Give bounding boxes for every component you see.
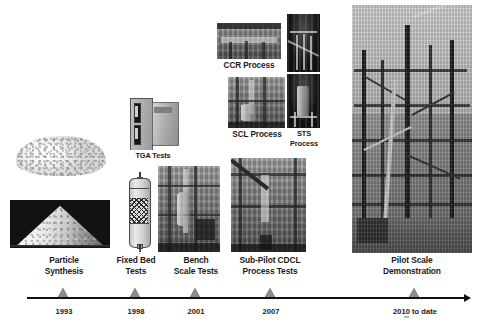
photo-scl-process xyxy=(228,77,285,128)
scl-base-shadow xyxy=(228,122,285,128)
sts-top-rail xyxy=(290,31,316,33)
stage-label-pilot-scale-line2: Demonstration xyxy=(364,267,460,276)
scl-column-left xyxy=(236,77,239,128)
photo-particle-cone xyxy=(10,200,110,248)
label-sts-process-line2: Process xyxy=(278,140,330,148)
label-ccr-process: CCR Process xyxy=(209,61,289,70)
year-label-1998: 1998 xyxy=(110,307,162,316)
year-label-2001: 2001 xyxy=(170,307,222,316)
timeline-arrowhead xyxy=(464,294,471,302)
reactor-packed-bed xyxy=(130,198,149,224)
scl-platform xyxy=(228,100,285,102)
stage-label-sub-pilot-cdcl-line2: Process Tests xyxy=(222,267,318,276)
cdcl-ground-shadow xyxy=(231,244,306,252)
tga-window-upper-glow xyxy=(135,106,137,116)
bench-reactor-vessel xyxy=(177,192,191,226)
photo-tga-instrument xyxy=(127,98,179,150)
photo-bench-scale-unit xyxy=(158,166,220,252)
label-sts-process-line1: STS xyxy=(281,130,327,138)
fixed-bed-connector-stem xyxy=(139,250,140,256)
corner-artifact xyxy=(404,316,409,318)
bench-equipment-block xyxy=(196,219,215,240)
timeline-marker-1993[interactable] xyxy=(58,288,68,297)
timeline-marker-1998[interactable] xyxy=(130,288,140,297)
timeline-marker-2010[interactable] xyxy=(409,288,419,297)
reactor-upper-divider xyxy=(129,188,148,189)
bench-floor-shadow xyxy=(158,243,220,252)
pilot-photo-grain xyxy=(352,5,472,253)
photo-fixed-bed-reactor xyxy=(123,172,155,252)
stage-label-particle-synthesis-line1: Particle xyxy=(28,256,100,265)
photo-ccr-process xyxy=(217,23,281,59)
sts-top-pole-2 xyxy=(303,34,305,70)
ccr-support-left xyxy=(229,42,232,59)
photo-pilot-plant xyxy=(352,5,472,253)
label-tga-tests: TGA Tests xyxy=(118,152,188,160)
ccr-upper-shadow xyxy=(217,23,281,29)
sts-bottom-base-rail xyxy=(290,116,318,118)
tga-cabinet-seam xyxy=(152,102,153,144)
bench-vertical-beam-1 xyxy=(168,166,171,252)
photo-sts-process-bottom xyxy=(287,74,320,128)
bench-horizontal-rail-1 xyxy=(158,185,220,187)
stage-label-particle-synthesis-line2: Synthesis xyxy=(28,267,100,276)
sts-bottom-leg-left xyxy=(294,112,296,127)
scl-column-right xyxy=(263,77,266,128)
powder-grain-texture xyxy=(16,136,106,176)
ccr-support-right xyxy=(262,42,265,59)
timeline-marker-2001[interactable] xyxy=(190,288,200,297)
tga-window-lower-glow xyxy=(135,128,137,138)
particle-cone-texture xyxy=(17,206,103,245)
tga-control-panel xyxy=(154,107,172,112)
sts-top-pole-1 xyxy=(296,35,298,70)
photo-floor-band xyxy=(10,245,110,248)
sts-bottom-leg-right xyxy=(311,112,313,127)
tga-furnace-tower xyxy=(130,98,153,150)
stage-label-pilot-scale-line1: Pilot Scale xyxy=(364,256,460,265)
photo-particle-powder xyxy=(12,129,110,179)
photo-sub-pilot-cdcl xyxy=(231,158,306,252)
year-label-1993: 1993 xyxy=(38,307,90,316)
year-label-2007: 2007 xyxy=(245,307,297,316)
photo-sts-process-top xyxy=(287,14,320,72)
timeline-axis xyxy=(27,297,467,299)
reactor-lower-divider xyxy=(129,223,148,224)
sts-bottom-vessel xyxy=(297,86,309,116)
year-label-2010: 2010 to date xyxy=(379,307,451,316)
timeline-figure: TGA Tests CCR Process xyxy=(0,0,479,324)
timeline-marker-2007[interactable] xyxy=(265,288,275,297)
stage-label-sub-pilot-cdcl-line1: Sub-Pilot CDCL xyxy=(222,256,318,265)
scl-reactor-vessel xyxy=(241,104,257,121)
ccr-support-mid xyxy=(245,41,248,59)
